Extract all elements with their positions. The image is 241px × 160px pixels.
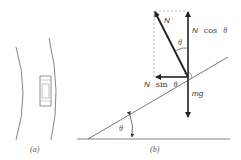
normal-vertical-label: N cos θ [192, 19, 227, 36]
normal-horizontal-label: N sin θ [144, 73, 178, 90]
normal-arrow [155, 12, 188, 77]
banked-curve-diagram: (a) θ mg N cos θ N θ N sin [0, 0, 241, 160]
normal-vertical-label-var: θ [223, 26, 227, 35]
normal-horizontal-label-main: N [144, 80, 150, 89]
weight-label: mg [192, 89, 204, 98]
normal-vertical-label-main: N [192, 26, 198, 35]
panel-b-label: (b) [150, 145, 160, 154]
normal-angle-label: θ [178, 38, 182, 47]
normal-horizontal-label-var: θ [174, 80, 178, 89]
incline-line [88, 57, 228, 139]
normal-angle-arc [175, 48, 188, 51]
car-icon [40, 76, 51, 106]
normal-vertical-label-fn: cos [204, 26, 217, 35]
panel-a-label: (a) [30, 145, 40, 154]
normal-horizontal-label-fn: sin [156, 80, 168, 89]
panel-b: θ mg N cos θ N θ N sin θ (b) [77, 11, 230, 154]
incline-angle-label: θ [119, 124, 123, 133]
incline-angle-arc [130, 115, 133, 137]
normal-label: N [164, 16, 170, 25]
road-right-edge [49, 38, 56, 140]
panel-a: (a) [16, 38, 56, 154]
road-left-edge [16, 47, 23, 140]
